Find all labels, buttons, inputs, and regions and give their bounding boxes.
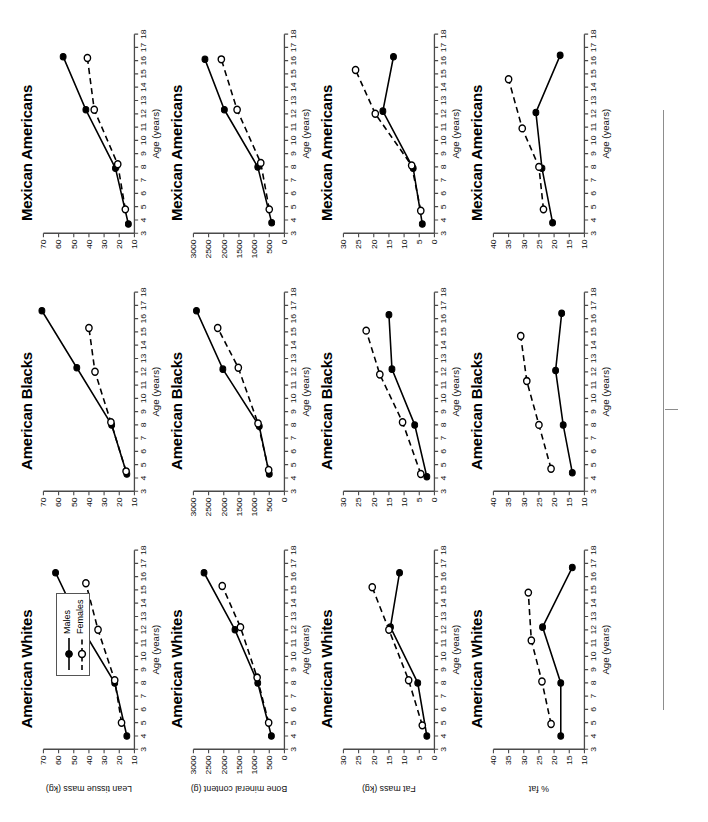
y-tick-label: 10 — [400, 239, 409, 249]
chart-panel: Mexican Americans10203040506070345678910… — [16, 26, 166, 280]
x-tick-label: 12 — [290, 625, 299, 635]
plot-area: 0510152025303456789101112131415161718Age… — [336, 284, 466, 538]
x-tick-label: 16 — [140, 571, 149, 581]
x-tick-label: 3 — [290, 488, 299, 493]
x-tick-label: 5 — [290, 462, 299, 467]
females-key-icon — [74, 637, 86, 671]
series-line-females — [218, 328, 269, 470]
x-tick-label: 7 — [440, 177, 449, 182]
x-tick-label: 6 — [590, 191, 599, 196]
data-point-female — [86, 325, 92, 332]
data-point-female — [525, 589, 531, 596]
x-tick-label: 8 — [440, 680, 449, 685]
y-tick-label: 15 — [565, 497, 574, 507]
y-tick-label: 25 — [355, 755, 364, 765]
x-tick-label: 17 — [590, 42, 599, 52]
x-tick-label: 3 — [140, 746, 149, 751]
x-tick-label: 4 — [590, 475, 599, 480]
y-tick-label: 25 — [535, 239, 544, 249]
x-tick-label: 14 — [140, 598, 149, 608]
data-point-female — [372, 110, 378, 117]
data-point-male — [559, 310, 565, 317]
x-tick-label: 18 — [290, 287, 299, 297]
y-tick-label: 25 — [535, 497, 544, 507]
panel-title: American Whites — [318, 542, 335, 796]
series-line-females — [356, 70, 421, 211]
chart-svg: 102030405060703456789101112131415161718A… — [36, 284, 166, 538]
data-point-male — [553, 367, 559, 374]
x-tick-label: 9 — [440, 667, 449, 672]
series-line-males — [383, 57, 422, 224]
x-tick-label: 15 — [440, 585, 449, 595]
data-point-female — [115, 161, 121, 168]
x-tick-label: 3 — [590, 746, 599, 751]
chart-panel: American Blacks0510152025303456789101112… — [316, 284, 466, 538]
x-tick-label: 13 — [290, 95, 299, 105]
data-point-male — [269, 219, 275, 226]
footer-divider-tick — [665, 409, 678, 410]
data-point-female — [539, 678, 545, 685]
y-tick-label: 15 — [385, 239, 394, 249]
data-point-male — [557, 52, 563, 59]
data-point-female — [377, 371, 383, 378]
y-tick-label: 40 — [490, 497, 499, 507]
y-tick-label: 30 — [100, 755, 109, 765]
panel-title: Mexican Americans — [468, 26, 485, 280]
data-point-female — [265, 719, 271, 726]
footer-divider — [663, 110, 664, 710]
x-tick-label: 16 — [440, 55, 449, 65]
data-point-male — [389, 366, 395, 373]
data-point-female — [369, 584, 375, 591]
x-axis-title: Age (years) — [602, 109, 612, 159]
y-tick-label: 50 — [70, 239, 79, 249]
x-tick-label: 12 — [590, 109, 599, 119]
y-tick-label: 25 — [355, 497, 364, 507]
x-tick-label: 12 — [290, 367, 299, 377]
x-tick-label: 13 — [590, 611, 599, 621]
y-tick-label: 70 — [40, 239, 49, 249]
y-tick-label: 30 — [340, 755, 349, 765]
y-tick-label: 0 — [281, 497, 290, 502]
plot-area: 0500100015002000250030003456789101112131… — [186, 284, 316, 538]
y-tick-label: 3000 — [190, 497, 199, 517]
x-tick-label: 10 — [290, 135, 299, 145]
series-line-males — [389, 315, 427, 477]
x-tick-label: 18 — [440, 545, 449, 555]
x-tick-label: 7 — [290, 435, 299, 440]
y-tick-label: 10 — [400, 497, 409, 507]
x-tick-label: 17 — [440, 300, 449, 310]
series-line-males — [556, 313, 573, 472]
data-point-female — [352, 67, 358, 74]
x-tick-label: 14 — [290, 82, 299, 92]
x-tick-label: 5 — [140, 720, 149, 725]
data-point-male — [83, 107, 89, 114]
x-tick-label: 10 — [440, 393, 449, 403]
y-tick-label: 40 — [85, 239, 94, 249]
data-point-female — [518, 332, 524, 339]
x-tick-label: 15 — [440, 327, 449, 337]
data-point-female — [219, 583, 225, 590]
plot-area: 0500100015002000250030003456789101112131… — [186, 542, 316, 796]
x-tick-label: 15 — [140, 327, 149, 337]
chart-svg: 0500100015002000250030003456789101112131… — [186, 284, 316, 538]
x-tick-label: 17 — [590, 558, 599, 568]
x-tick-label: 8 — [140, 680, 149, 685]
x-tick-label: 17 — [440, 558, 449, 568]
x-tick-label: 12 — [590, 367, 599, 377]
x-tick-label: 3 — [590, 488, 599, 493]
chart-svg: 0510152025303456789101112131415161718Age… — [336, 542, 466, 796]
y-tick-label: 40 — [85, 497, 94, 507]
y-tick-label: 60 — [55, 497, 64, 507]
y-tick-label: 5 — [415, 239, 424, 244]
y-tick-label: 20 — [115, 755, 124, 765]
x-tick-label: 6 — [140, 191, 149, 196]
x-tick-label: 12 — [440, 625, 449, 635]
x-tick-label: 9 — [590, 151, 599, 156]
x-tick-label: 12 — [140, 109, 149, 119]
y-tick-label: 1000 — [250, 239, 259, 259]
x-tick-label: 14 — [440, 82, 449, 92]
y-tick-label: 10 — [131, 239, 140, 249]
y-tick-label: 25 — [535, 755, 544, 765]
x-tick-label: 5 — [590, 204, 599, 209]
panel-title: American Whites — [468, 542, 485, 796]
